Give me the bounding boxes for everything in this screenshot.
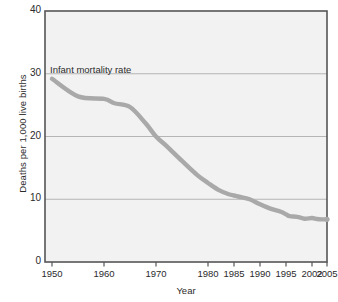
x-tick-label-1990: 1990 — [249, 268, 270, 279]
x-tick-label-1960: 1960 — [93, 268, 114, 279]
x-tick-label-1970: 1970 — [145, 268, 166, 279]
x-tick-label-1950: 1950 — [41, 268, 62, 279]
x-tick-label-2005: 2005 — [316, 268, 337, 279]
series-endpoint-marker — [324, 217, 329, 222]
y-tick-label-0: 0 — [1, 256, 41, 266]
x-axis-title: Year — [45, 285, 327, 296]
x-tick-label-1985: 1985 — [223, 268, 244, 279]
y-axis-title: Deaths per 1,000 live births — [17, 34, 28, 234]
x-tick-label-1980: 1980 — [197, 268, 218, 279]
x-tick-label-1995: 1995 — [275, 268, 296, 279]
y-tick-label-40: 40 — [1, 5, 41, 15]
annotation-infant-mortality-rate: Infant mortality rate — [50, 64, 131, 75]
